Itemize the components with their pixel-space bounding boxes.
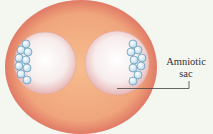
amniotic-sac-label: Amniotic sac (160, 56, 212, 80)
amniotic-sac-label-line2: sac (160, 68, 212, 80)
amniotic-sac-label-line1: Amniotic (160, 56, 212, 68)
